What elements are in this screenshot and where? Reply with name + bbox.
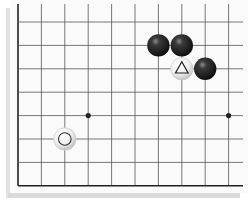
black-stone[interactable] [194, 58, 216, 80]
black-stone-icon [194, 58, 216, 80]
white-stone-icon [54, 128, 76, 150]
star-point-icon [226, 113, 231, 118]
black-stone-icon [147, 34, 169, 56]
white-stone[interactable] [171, 58, 193, 80]
star-point-icon [86, 113, 91, 118]
board-shadow-bottom [8, 193, 240, 198]
white-stone[interactable] [54, 128, 76, 150]
go-board-canvas[interactable] [0, 0, 248, 210]
black-stone[interactable] [147, 34, 169, 56]
black-stone[interactable] [171, 34, 193, 56]
go-board[interactable] [0, 0, 248, 210]
board-shadow-left [6, 8, 10, 198]
black-stone-icon [171, 34, 193, 56]
board-surface [10, 0, 248, 193]
